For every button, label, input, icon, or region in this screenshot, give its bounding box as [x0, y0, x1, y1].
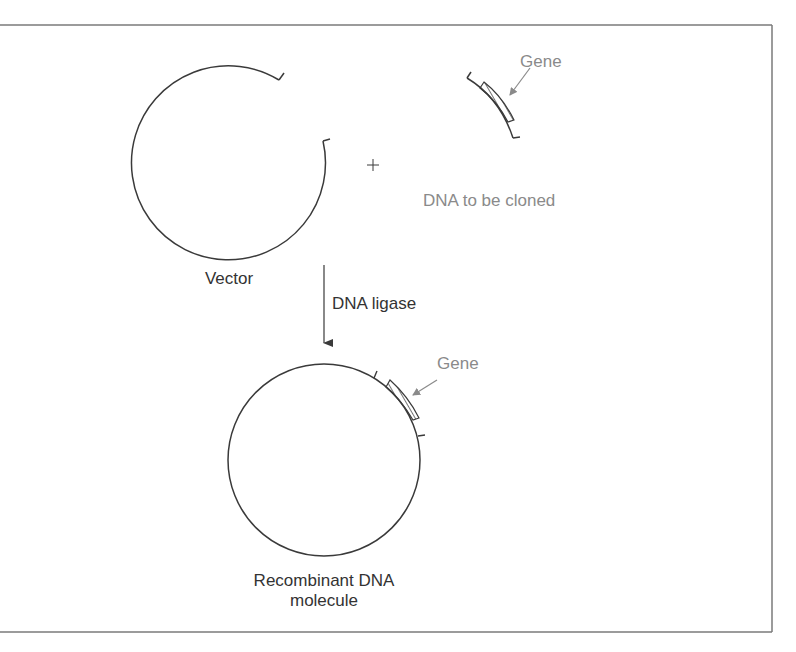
- recombinant-label-line1: Recombinant DNA: [224, 571, 424, 591]
- dna-fragment-icon: [467, 68, 530, 138]
- recombinant-label: Recombinant DNA molecule: [224, 571, 424, 611]
- plus-icon: [367, 159, 379, 171]
- figure-frame: [0, 25, 772, 632]
- gene-label-top: Gene: [520, 52, 562, 72]
- dna-ligase-label: DNA ligase: [332, 294, 416, 314]
- gene-label-bottom: Gene: [437, 354, 479, 374]
- diagram-canvas: [0, 0, 796, 652]
- gene-pointer-top: [510, 68, 530, 95]
- vector-plasmid-icon: [131, 66, 330, 260]
- gene-segment-bottom: [386, 380, 419, 420]
- gene-segment-top: [480, 82, 514, 122]
- recombinant-plasmid-icon: [228, 364, 437, 556]
- recombinant-label-line2: molecule: [224, 591, 424, 611]
- dna-to-be-cloned-label: DNA to be cloned: [423, 191, 555, 211]
- gene-pointer-bottom: [413, 380, 437, 395]
- vector-label: Vector: [189, 269, 269, 289]
